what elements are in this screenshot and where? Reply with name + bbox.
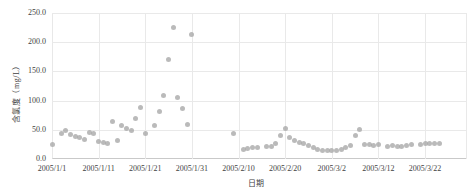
- x-axis-tick-label: 2005/2/20: [262, 164, 308, 173]
- data-point: [185, 122, 190, 127]
- data-point: [348, 143, 353, 148]
- x-axis-title: 日期: [248, 177, 264, 188]
- x-axis-tick-label: 2005/2/10: [216, 164, 262, 173]
- v-gridline: [145, 13, 146, 159]
- v-gridline: [332, 13, 333, 159]
- data-point: [437, 141, 442, 146]
- scatter-chart: 含氯度（mg/L） 日期 250.0200.0150.0100.050.00.0…: [0, 0, 471, 189]
- h-gridline: [52, 13, 467, 14]
- h-gridline: [52, 42, 467, 43]
- x-axis-tick-label: 2005/3/2: [309, 164, 355, 173]
- data-point: [152, 123, 157, 128]
- h-gridline: [52, 101, 467, 102]
- v-gridline: [99, 13, 100, 159]
- v-gridline: [285, 13, 286, 159]
- y-axis-tick-label: 50.0: [16, 126, 46, 134]
- y-axis-tick-label: 250.0: [16, 9, 46, 17]
- h-gridline: [52, 71, 467, 72]
- y-axis-tick-label: 100.0: [16, 97, 46, 105]
- y-axis-tick-label: 0.0: [16, 155, 46, 163]
- y-axis-tick-label: 200.0: [16, 38, 46, 46]
- x-axis-tick-label: 2005/1/11: [76, 164, 122, 173]
- plot-area: [52, 13, 467, 159]
- x-axis-tick-label: 2005/1/31: [169, 164, 215, 173]
- data-point: [283, 126, 288, 131]
- data-point: [157, 109, 162, 114]
- x-axis-tick-label: 2005/1/21: [122, 164, 168, 173]
- v-gridline: [239, 13, 240, 159]
- x-axis-tick-label: 2005/3/22: [402, 164, 448, 173]
- data-point: [171, 25, 176, 30]
- data-point: [129, 128, 134, 133]
- data-point: [353, 133, 358, 138]
- x-axis-tick-label: 2005/1/1: [29, 164, 75, 173]
- h-gridline: [52, 130, 467, 131]
- y-axis-tick-label: 150.0: [16, 67, 46, 75]
- x-axis-tick-label: 2005/3/12: [355, 164, 401, 173]
- v-gridline: [425, 13, 426, 159]
- v-gridline: [466, 13, 467, 159]
- v-gridline: [378, 13, 379, 159]
- data-point: [376, 142, 381, 147]
- data-point: [189, 32, 194, 37]
- data-point: [255, 145, 260, 150]
